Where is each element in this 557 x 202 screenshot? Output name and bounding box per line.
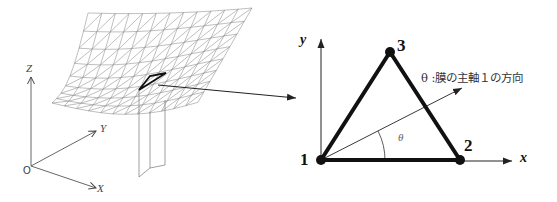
node-1-label: 1 [300, 151, 309, 168]
diagram-canvas [0, 0, 557, 202]
node-1 [316, 155, 326, 165]
global-y-label: Y [100, 123, 106, 134]
global-z-label: Z [26, 63, 32, 74]
triangle-element [321, 52, 460, 160]
local-y-label: y [300, 33, 306, 47]
theta-angle-label: θ [398, 132, 403, 143]
theta-arc [378, 131, 385, 161]
node-3 [385, 47, 395, 57]
local-axes [321, 39, 512, 161]
global-x-label: X [97, 183, 104, 194]
origin-label: O [23, 166, 31, 176]
membrane-mesh [52, 8, 252, 114]
principal-axis-note: θ :膜の主軸１の方向 [421, 73, 523, 85]
node-2 [455, 155, 465, 165]
global-x-axis [31, 166, 96, 188]
node-2-label: 2 [464, 137, 473, 154]
local-x-label: x [520, 151, 527, 165]
global-y-axis [31, 131, 96, 166]
support-lines [139, 90, 165, 177]
enlarge-arrow [158, 85, 296, 98]
membrane-element-diagram: Z Y X O y x 1 2 3 θ θ :膜の主軸１の方向 [0, 0, 557, 202]
node-3-label: 3 [397, 37, 406, 54]
